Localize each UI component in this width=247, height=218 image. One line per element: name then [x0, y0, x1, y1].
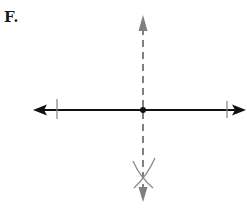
- perpendicular-bisector-diagram: [0, 0, 247, 218]
- arc-right: [134, 158, 155, 188]
- arrowhead-down-icon: [139, 187, 148, 202]
- horizontal-line: [33, 105, 246, 116]
- center-point: [140, 107, 146, 113]
- arrowhead-up-icon: [139, 15, 148, 31]
